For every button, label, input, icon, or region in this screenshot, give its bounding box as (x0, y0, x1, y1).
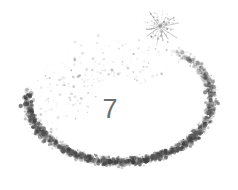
stippled-crescent-artwork (0, 0, 238, 190)
artwork-canvas: 7 (0, 0, 238, 190)
